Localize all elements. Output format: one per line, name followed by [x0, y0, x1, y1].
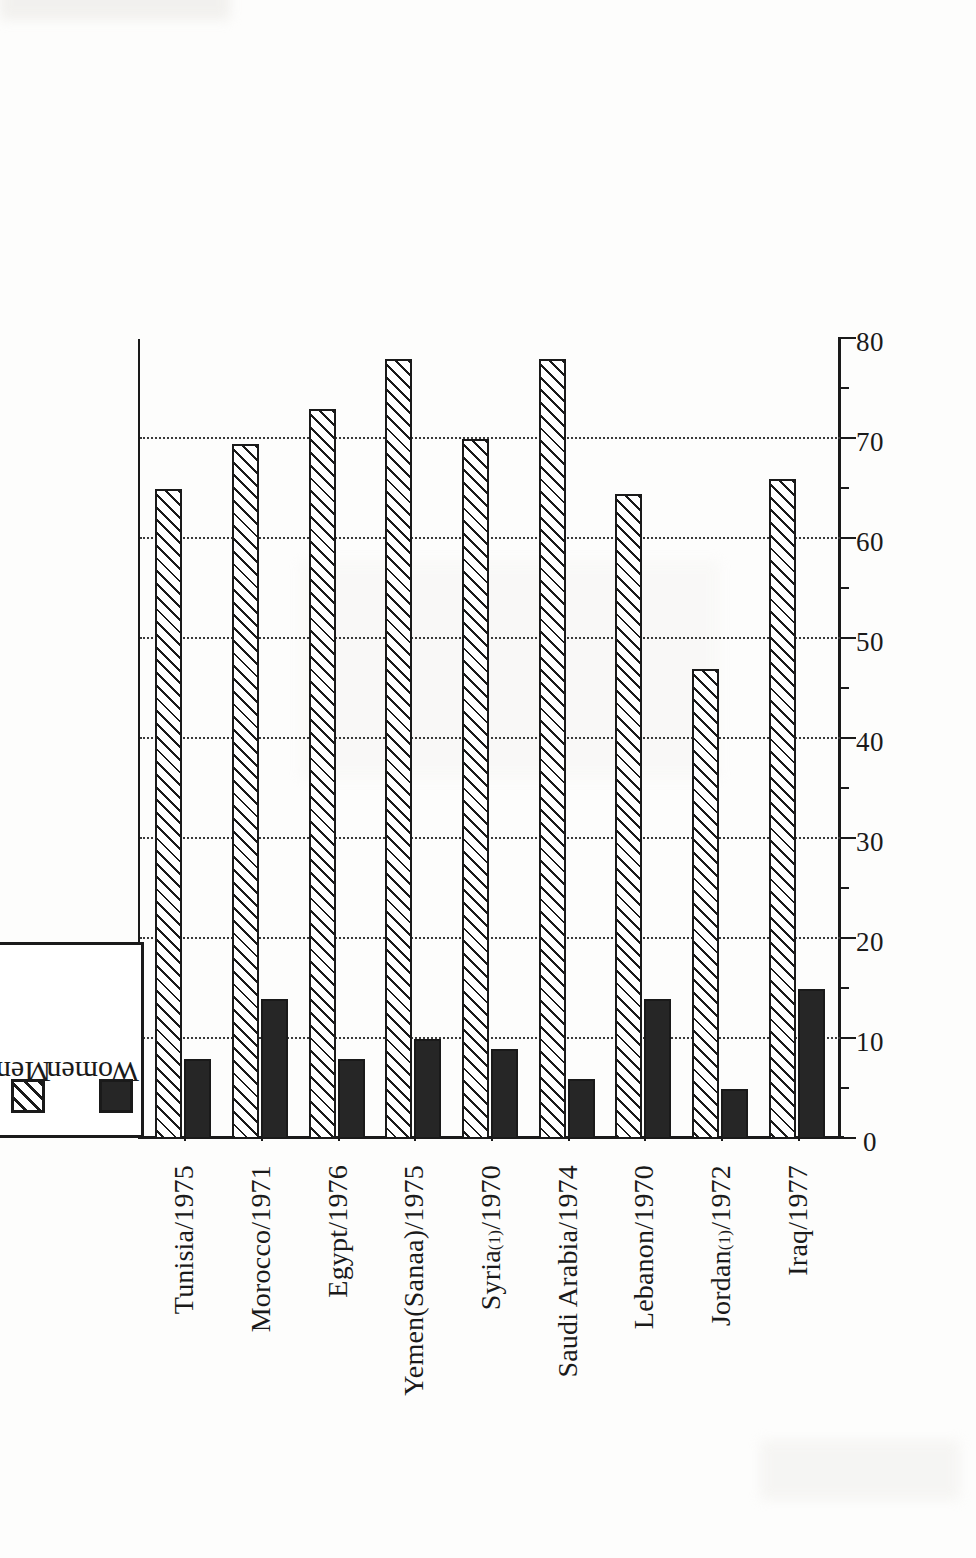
- tick-major-10: [841, 1037, 856, 1039]
- category-label: Morocco/1971: [247, 1165, 275, 1332]
- scan-artifact-bottom-right: [760, 1440, 960, 1500]
- tick-major-60: [841, 537, 856, 539]
- tick-minor-75: [841, 387, 849, 389]
- value-tick-label-0: 0: [863, 1129, 877, 1156]
- legend-label-men: Men: [0, 1057, 51, 1087]
- bar-women: [644, 999, 671, 1139]
- bar-men: [155, 489, 182, 1139]
- category-tick: [414, 1130, 416, 1141]
- bar-women: [491, 1049, 518, 1139]
- category-tick: [721, 1130, 723, 1141]
- category-tick: [338, 1130, 340, 1141]
- tick-minor-65: [841, 487, 849, 489]
- bar-men: [385, 359, 412, 1139]
- category-label: Egypt/1976: [324, 1165, 352, 1298]
- scanned-page: 01020304050607080 Tunisia/1975Morocco/19…: [0, 0, 976, 1558]
- bar-women: [184, 1059, 211, 1139]
- bar-women: [261, 999, 288, 1139]
- category-label: Iraq/1977: [784, 1165, 812, 1276]
- category-label: Lebanon/1970: [630, 1165, 658, 1329]
- tick-minor-55: [841, 587, 849, 589]
- tick-major-20: [841, 937, 856, 939]
- bar-women: [568, 1079, 595, 1139]
- rotated-figure-container: 01020304050607080 Tunisia/1975Morocco/19…: [88, 279, 888, 1279]
- bar-women: [798, 989, 825, 1139]
- value-tick-label-70: 70: [856, 429, 884, 456]
- value-tick-label-80: 80: [856, 329, 884, 356]
- category-tick: [568, 1130, 570, 1141]
- category-tick: [261, 1130, 263, 1141]
- category-tick: [491, 1130, 493, 1141]
- bar-men: [232, 444, 259, 1139]
- bar-women: [414, 1039, 441, 1139]
- tick-major-30: [841, 837, 856, 839]
- tick-major-0: [841, 1137, 856, 1139]
- grouped-bar-chart: 01020304050607080 Tunisia/1975Morocco/19…: [88, 279, 888, 1279]
- category-label: Saudi Arabia/1974: [554, 1165, 582, 1378]
- category-label: Yemen(Sanaa)/1975: [400, 1165, 428, 1396]
- legend-entry-women: Women: [59, 945, 147, 1135]
- category-label: Jordan(1)/1972: [707, 1165, 735, 1326]
- plot-area: 01020304050607080 Tunisia/1975Morocco/19…: [146, 339, 836, 1139]
- category-tick: [184, 1130, 186, 1141]
- tick-minor-5: [841, 1087, 849, 1089]
- category-tick: [644, 1130, 646, 1141]
- category-label: Tunisia/1975: [170, 1165, 198, 1314]
- tick-major-40: [841, 737, 856, 739]
- legend-label-women: Women: [46, 1057, 139, 1087]
- gridline-70: [140, 437, 840, 439]
- tick-minor-25: [841, 887, 849, 889]
- chart-legend: Men Women: [0, 942, 144, 1138]
- value-tick-label-10: 10: [856, 1029, 884, 1056]
- bar-men: [462, 439, 489, 1139]
- footnote-marker: (1): [715, 1230, 734, 1250]
- value-tick-label-50: 50: [856, 629, 884, 656]
- tick-minor-35: [841, 787, 849, 789]
- tick-minor-45: [841, 687, 849, 689]
- category-tick: [798, 1130, 800, 1141]
- bar-men: [692, 669, 719, 1139]
- bar-men: [769, 479, 796, 1139]
- value-tick-label-30: 30: [856, 829, 884, 856]
- footnote-marker: (1): [485, 1230, 504, 1250]
- legend-entry-men: Men: [0, 945, 59, 1135]
- bar-men: [539, 359, 566, 1139]
- scan-artifact-top-left: [0, 0, 230, 20]
- bar-women: [338, 1059, 365, 1139]
- value-tick-label-40: 40: [856, 729, 884, 756]
- bar-men: [615, 494, 642, 1139]
- value-tick-label-60: 60: [856, 529, 884, 556]
- tick-minor-15: [841, 987, 849, 989]
- tick-major-70: [841, 437, 856, 439]
- category-label: Syria(1)/1970: [477, 1165, 505, 1310]
- bar-men: [309, 409, 336, 1139]
- bar-women: [721, 1089, 748, 1139]
- tick-major-80: [841, 337, 856, 339]
- value-tick-label-20: 20: [856, 929, 884, 956]
- tick-major-50: [841, 637, 856, 639]
